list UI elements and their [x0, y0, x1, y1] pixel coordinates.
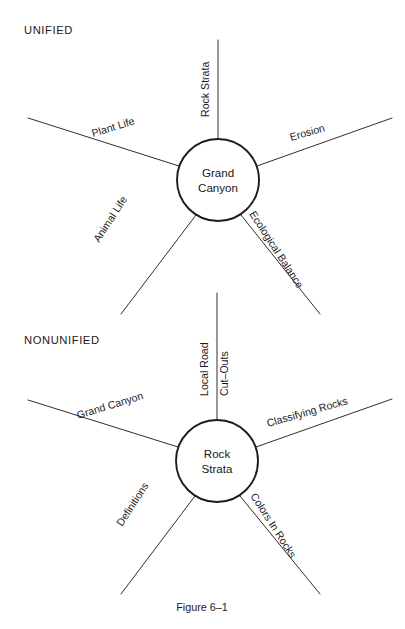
spoke-line-erosion [257, 118, 392, 166]
diagram-nonunified: NONUNIFIED Rock Strata Local Road Cut–Ou… [24, 293, 392, 594]
spoke-label-ecological-balance: Ecological Balance [247, 209, 306, 291]
hub-circle-rock-strata [176, 420, 258, 502]
hub-label-line2: Canyon [198, 181, 238, 194]
spoke-label-plant-life: Plant Life [90, 114, 136, 138]
hub-label-line1: Grand [202, 166, 234, 179]
section-heading-nonunified: NONUNIFIED [24, 334, 100, 346]
spoke-label-colors-in-rocks: Colors In Rocks [248, 491, 299, 560]
spoke-label-grand-canyon: Grand Canyon [75, 389, 145, 421]
spoke-label-animal-life: Animal Life [91, 194, 130, 245]
diagram-unified: UNIFIED Grand Canyon Rock Strata Plant L… [24, 24, 392, 314]
section-heading-unified: UNIFIED [24, 24, 73, 36]
spoke-label-rock-strata: Rock Strata [199, 62, 211, 117]
hub-label-line2: Strata [202, 462, 233, 475]
spoke-line-animal-life [121, 215, 196, 314]
hub-circle-grand-canyon [177, 139, 259, 221]
figure-caption: Figure 6–1 [176, 601, 228, 613]
hub-label-line1: Rock [204, 447, 231, 460]
spoke-label-local-road: Local Road [198, 342, 210, 396]
spoke-label-classifying-rocks: Classifying Rocks [265, 394, 349, 429]
radial-diagram-canvas: UNIFIED Grand Canyon Rock Strata Plant L… [0, 0, 405, 629]
spoke-label-erosion: Erosion [288, 121, 326, 142]
spoke-label-cut-outs: Cut–Outs [218, 351, 230, 396]
spoke-label-definitions: Definitions [114, 480, 151, 528]
figure-container: UNIFIED Grand Canyon Rock Strata Plant L… [0, 0, 405, 629]
